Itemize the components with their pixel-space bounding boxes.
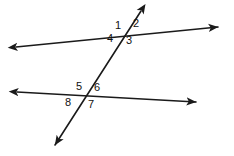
angle-label-3: 3 bbox=[126, 35, 132, 46]
angle-label-5: 5 bbox=[76, 81, 82, 92]
angle-label-1: 1 bbox=[115, 20, 121, 31]
angle-label-6: 6 bbox=[94, 82, 100, 93]
angle-label-2: 2 bbox=[133, 18, 139, 29]
angle-label-7: 7 bbox=[88, 99, 94, 110]
geometry-diagram: 1 2 3 4 5 6 7 8 bbox=[0, 0, 234, 156]
angle-label-8: 8 bbox=[65, 97, 71, 108]
lower-parallel-line bbox=[17, 92, 196, 102]
angle-label-4: 4 bbox=[107, 33, 113, 44]
transversal-line bbox=[55, 11, 141, 145]
